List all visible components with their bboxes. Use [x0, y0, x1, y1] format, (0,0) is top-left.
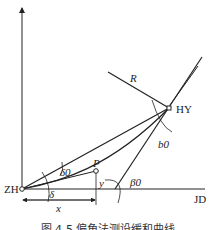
beta0-arc	[105, 180, 120, 203]
radius-line	[108, 72, 169, 108]
hy-point	[167, 106, 171, 110]
p-label: P	[92, 157, 100, 169]
jd-label: JD	[194, 193, 206, 205]
zh-point	[20, 187, 25, 192]
beta0-label: β0	[129, 176, 141, 188]
chord-to-p	[22, 171, 96, 189]
delta0-label: δ0	[60, 166, 71, 178]
transition-curve-diagram: ZH HY JD R P x y δ δ0 β0 b0	[0, 0, 216, 230]
zh-label: ZH	[4, 183, 19, 195]
x-label: x	[55, 202, 61, 214]
figure-caption: 图 4-5 偏角法测设缓和曲线	[0, 220, 216, 230]
hy-label: HY	[176, 103, 192, 115]
radius-label: R	[129, 72, 137, 84]
long-chord	[22, 108, 169, 189]
delta-label: δ	[49, 188, 55, 200]
y-label: y	[98, 177, 104, 189]
b0-label: b0	[158, 138, 170, 150]
p-point	[94, 169, 99, 174]
hy-tangent	[115, 57, 202, 189]
